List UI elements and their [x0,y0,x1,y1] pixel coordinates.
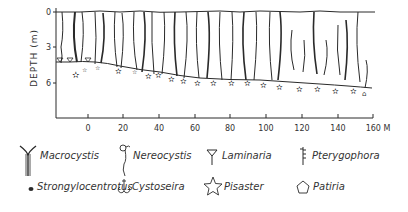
x-tick-label: 160 M [366,124,391,133]
legend-label-patiria: Patiria [313,181,345,192]
svg-text:✫: ✫ [194,79,201,88]
laminaria-icon [206,148,218,166]
x-tick-label: 80 [225,124,235,133]
legend-label-macrocystis: Macrocystis [40,150,99,161]
svg-text:✫: ✫ [350,87,357,96]
x-tick-label: 60 [190,124,200,133]
svg-text:✫: ✫ [260,81,267,90]
seafloor-organisms: ✫ ☆ ☆ ✫ ☆ ✫ ✫ ✫ ✫ ✫ ✫ ✫ ✫ ✫ ✫ ✫ ✫ ✫ ✫ ⌂ [57,58,366,98]
x-tick-label: 140 [330,124,345,133]
legend-label-pterygophora: Pterygophora [312,150,380,161]
svg-text:✫: ✫ [276,83,283,92]
x-tick-label: 0 [85,124,90,133]
macrocystis-icon [18,144,38,178]
svg-text:✫: ✫ [155,71,162,80]
svg-text:✫: ✫ [244,79,251,88]
kelp-stalks [61,12,367,88]
patiria-pentagon-icon [296,180,310,194]
legend-label-nereocystis: Nereocystis [133,150,192,161]
x-tick-label: 40 [154,124,164,133]
y-tick-label: 0 [46,8,51,17]
pisaster-star-icon [203,176,223,196]
y-axis-label: DEPTH (m) [29,29,39,87]
svg-text:☆: ☆ [132,68,137,75]
y-tick-label: 6 [46,79,51,88]
svg-text:⌂: ⌂ [362,90,366,98]
cystoseira-icon [117,178,131,194]
strongylocentrotus-dot-icon [28,186,34,192]
x-tick-label: 100 [258,124,273,133]
pterygophora-icon [298,146,308,166]
svg-text:✫: ✫ [72,70,80,80]
sea-surface-line [56,11,375,12]
legend-label-pisaster: Pisaster [224,181,264,192]
x-tick-label: 120 [294,124,309,133]
svg-text:✫: ✫ [168,75,175,84]
svg-text:✫: ✫ [145,72,152,81]
svg-text:✫: ✫ [180,77,187,86]
svg-text:✫: ✫ [210,79,217,88]
svg-text:☆: ☆ [82,66,87,73]
svg-text:☆: ☆ [95,64,100,71]
y-tick-label: 3 [46,43,51,52]
nereocystis-icon [118,143,132,177]
legend-label-laminaria: Laminaria [222,150,272,161]
svg-text:✫: ✫ [115,67,122,76]
y-axis [53,8,56,118]
svg-text:✫: ✫ [332,87,339,96]
svg-text:✫: ✫ [296,85,303,94]
svg-text:✫: ✫ [314,85,321,94]
x-axis [56,114,373,118]
svg-text:✫: ✫ [228,79,235,88]
legend-label-cystoseira: Cystoseira [132,181,185,192]
x-tick-label: 20 [118,124,128,133]
